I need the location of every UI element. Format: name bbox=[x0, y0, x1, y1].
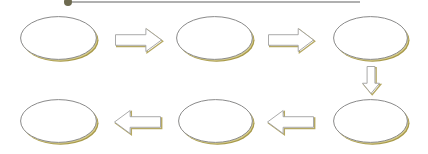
process-flow-diagram bbox=[0, 0, 428, 154]
node-label bbox=[20, 16, 97, 60]
node-label bbox=[178, 99, 253, 143]
arrow-down-icon bbox=[362, 66, 380, 94]
arrow-right-icon bbox=[115, 28, 162, 52]
node-label bbox=[333, 99, 408, 143]
arrow-right-icon bbox=[268, 28, 314, 52]
ellipse-node bbox=[20, 99, 97, 143]
header-rule bbox=[72, 1, 360, 3]
node-label bbox=[20, 99, 97, 143]
ellipse-node bbox=[20, 16, 97, 60]
node-label bbox=[176, 16, 253, 60]
ellipse-node bbox=[333, 16, 408, 60]
header-bullet-dot bbox=[64, 0, 72, 6]
ellipse-node bbox=[176, 16, 253, 60]
node-label bbox=[333, 16, 408, 60]
ellipse-node bbox=[178, 99, 253, 143]
arrow-left-icon bbox=[267, 110, 314, 134]
ellipse-node bbox=[333, 99, 408, 143]
arrow-left-icon bbox=[114, 110, 161, 134]
